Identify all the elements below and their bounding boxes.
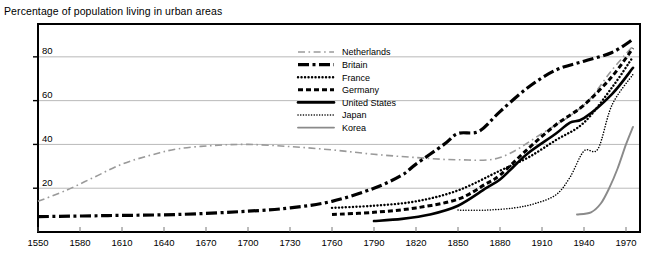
y-tick-label: 40 bbox=[42, 133, 53, 144]
x-tick-label: 1940 bbox=[573, 237, 594, 248]
x-tick-label: 1640 bbox=[153, 237, 174, 248]
y-tick-label: 80 bbox=[42, 45, 53, 56]
y-axis-labels: 20406080 bbox=[33, 45, 53, 188]
legend-label-japan: Japan bbox=[342, 110, 367, 120]
legend-label-germany: Germany bbox=[342, 85, 380, 95]
x-tick-label: 1730 bbox=[279, 237, 300, 248]
series-lines bbox=[38, 39, 633, 221]
gridlines bbox=[38, 57, 640, 188]
x-tick-label: 1820 bbox=[405, 237, 426, 248]
x-tick-label: 1970 bbox=[615, 237, 636, 248]
legend-label-netherlands: Netherlands bbox=[342, 47, 391, 57]
x-tick-label: 1700 bbox=[237, 237, 258, 248]
x-tick-label: 1580 bbox=[69, 237, 90, 248]
legend-label-united-states: United States bbox=[342, 98, 397, 108]
x-tick-label: 1850 bbox=[447, 237, 468, 248]
x-tick-label: 1910 bbox=[531, 237, 552, 248]
x-tick-label: 1880 bbox=[489, 237, 510, 248]
legend-label-britain: Britain bbox=[342, 60, 368, 70]
series-line-korea bbox=[577, 127, 633, 215]
x-tick-label: 1760 bbox=[321, 237, 342, 248]
series-line-netherlands bbox=[38, 46, 633, 201]
x-tick-label: 1670 bbox=[195, 237, 216, 248]
x-tick-label: 1550 bbox=[27, 237, 48, 248]
chart-legend: NetherlandsBritainFranceGermanyUnited St… bbox=[298, 47, 397, 133]
y-tick-label: 20 bbox=[42, 177, 53, 188]
x-tick-label: 1610 bbox=[111, 237, 132, 248]
y-tick-label: 60 bbox=[42, 89, 53, 100]
legend-label-france: France bbox=[342, 73, 370, 83]
x-tick-label: 1790 bbox=[363, 237, 384, 248]
series-line-britain bbox=[38, 39, 633, 216]
chart-container: Percentage of population living in urban… bbox=[0, 0, 650, 259]
line-chart-plot: 1550158016101640167017001730176017901820… bbox=[0, 0, 650, 259]
x-axis-labels: 1550158016101640167017001730176017901820… bbox=[27, 237, 636, 248]
legend-label-korea: Korea bbox=[342, 123, 366, 133]
